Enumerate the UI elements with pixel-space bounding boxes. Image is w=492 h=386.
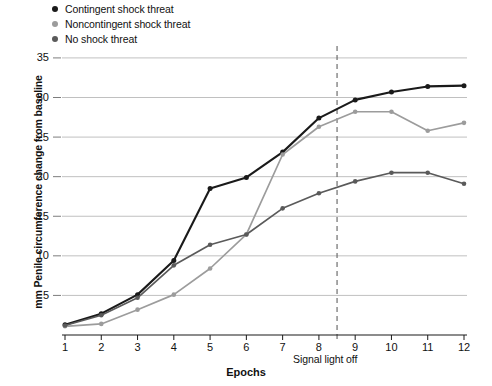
data-point [425, 84, 430, 89]
x-tick-label-5: 5 [198, 342, 222, 353]
data-point [244, 175, 249, 180]
series-line-2 [65, 112, 464, 327]
legend-label-no-shock: No shock threat [65, 34, 137, 45]
x-tick-label-1: 1 [53, 342, 77, 353]
x-tick-label-8: 8 [307, 342, 331, 353]
data-point [316, 116, 321, 121]
x-tick-label-10: 10 [379, 342, 403, 353]
legend-dot-noncontingent-icon [52, 21, 58, 27]
x-tick-marks-group [65, 335, 464, 340]
figure-caption [10, 381, 490, 386]
data-point [425, 170, 430, 175]
data-point [280, 206, 285, 211]
chart-legend: Contingent shock threat Noncontingent sh… [52, 2, 312, 47]
x-tick-label-11: 11 [416, 342, 440, 353]
data-point [208, 186, 213, 191]
data-point [389, 109, 394, 114]
x-tick-label-6: 6 [234, 342, 258, 353]
data-point [353, 97, 358, 102]
legend-label-contingent: Contingent shock threat [65, 4, 174, 15]
data-point [135, 295, 140, 300]
data-point [172, 263, 177, 268]
data-point [172, 292, 177, 297]
x-tick-label-2: 2 [89, 342, 113, 353]
x-tick-label-9: 9 [343, 342, 367, 353]
x-axis-title: Epochs [0, 366, 492, 378]
y-tick-label-15: 15 [15, 211, 49, 222]
data-point [389, 170, 394, 175]
data-point [244, 232, 249, 237]
x-tick-label-3: 3 [126, 342, 150, 353]
data-point [208, 266, 213, 271]
y-tick-label-25: 25 [15, 132, 49, 143]
data-point [63, 323, 68, 328]
y-tick-label-20: 20 [15, 171, 49, 182]
data-point [353, 179, 358, 184]
data-point [353, 109, 358, 114]
data-point [462, 83, 467, 88]
y-tick-label-30: 30 [15, 92, 49, 103]
data-point [171, 258, 176, 263]
data-series-group [63, 83, 467, 328]
data-point [99, 322, 104, 327]
y-tick-label-5: 5 [15, 290, 49, 301]
y-tick-label-35: 35 [15, 52, 49, 63]
legend-item-noncontingent: Noncontingent shock threat [52, 17, 312, 31]
data-point [99, 313, 104, 318]
y-tick-label-10: 10 [15, 250, 49, 261]
legend-label-noncontingent: Noncontingent shock threat [65, 19, 190, 30]
legend-dot-contingent-icon [52, 6, 58, 12]
data-point [462, 121, 467, 126]
data-point [389, 89, 394, 94]
x-tick-label-7: 7 [271, 342, 295, 353]
signal-light-off-label: Signal light off [293, 353, 357, 365]
data-point [135, 307, 140, 312]
data-point [317, 124, 322, 129]
data-point [317, 191, 322, 196]
legend-item-contingent: Contingent shock threat [52, 2, 312, 16]
legend-dot-no-shock-icon [52, 36, 58, 42]
legend-item-no-shock: No shock threat [52, 32, 312, 46]
gridlines-group [62, 58, 467, 295]
y-tick-marks-group [53, 58, 61, 295]
data-point [280, 152, 285, 157]
series-line-1 [65, 86, 464, 325]
figure-container: Contingent shock threat Noncontingent sh… [0, 0, 492, 386]
plot-area: 5101520253035 123456789101112 [62, 50, 467, 335]
data-point [462, 181, 467, 186]
chart-svg [62, 50, 467, 335]
data-point [208, 242, 213, 247]
x-tick-label-12: 12 [452, 342, 476, 353]
x-tick-label-4: 4 [162, 342, 186, 353]
data-point [425, 128, 430, 133]
